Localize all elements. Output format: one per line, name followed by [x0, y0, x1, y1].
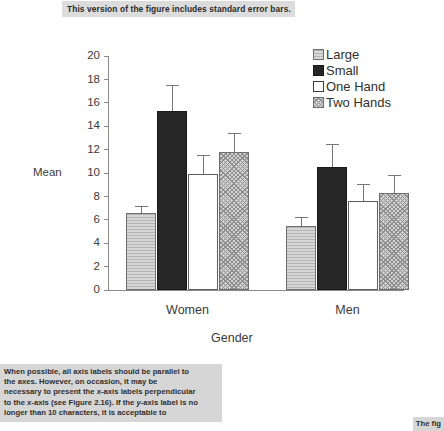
error-bar-cap	[295, 217, 308, 218]
legend-item-small: Small	[313, 64, 391, 77]
y-tick-label: 6	[94, 214, 104, 226]
y-tick-label: 20	[87, 50, 104, 62]
body-line-1: When possible, all axis labels should be…	[4, 367, 189, 376]
legend-swatch-icon	[313, 81, 324, 92]
y-tick-label: 2	[94, 261, 104, 273]
error-bar-cap	[388, 175, 401, 176]
error-bar-stem	[394, 175, 395, 193]
body-line-5: longer than 10 characters, it is accepta…	[4, 408, 166, 417]
error-bar-cap	[166, 85, 179, 86]
error-bar-stem	[172, 85, 173, 111]
error-bar-cap	[197, 155, 210, 156]
error-bar-stem	[234, 133, 235, 152]
x-axis-line	[108, 290, 404, 291]
error-bar-stem	[141, 206, 142, 213]
error-bar-stem	[301, 217, 302, 225]
body-line-2: the axes. However, on occasion, it may b…	[4, 377, 157, 386]
bar-women-two-hands	[219, 152, 249, 290]
y-tick-label: 0	[94, 284, 104, 296]
x-axis-label-men: Men	[298, 304, 398, 317]
body-line-3a: necessary to present the	[4, 387, 97, 396]
legend-label: One Hand	[326, 80, 385, 93]
legend-label: Small	[326, 64, 359, 77]
error-bar-cap	[135, 206, 148, 207]
x-axis-title: Gender	[211, 332, 253, 345]
legend-swatch-icon	[313, 49, 324, 60]
legend-item-two-hands: Two Hands	[313, 96, 391, 109]
y-tick-label: 8	[94, 191, 104, 203]
bar-men-two-hands	[379, 193, 409, 290]
corner-text-fragment: The fig	[413, 417, 444, 431]
error-bar-cap	[228, 133, 241, 134]
bar-men-one-hand	[348, 201, 378, 290]
error-bar-stem	[203, 155, 204, 174]
body-line-4b: -axis (see Figure 2.16). If the	[31, 398, 136, 407]
bar-women-one-hand	[188, 174, 218, 290]
legend-label: Large	[326, 48, 359, 61]
bar-women-large	[126, 213, 156, 290]
error-bar-stem	[332, 144, 333, 167]
y-tick-label: 16	[87, 97, 104, 109]
error-bar-stem	[363, 184, 364, 202]
legend-item-one-hand: One Hand	[313, 80, 391, 93]
error-bar-cap	[326, 144, 339, 145]
figure-caption: This version of the figure includes stan…	[62, 1, 295, 17]
chart-legend: LargeSmallOne HandTwo Hands	[313, 48, 391, 109]
legend-label: Two Hands	[326, 96, 391, 109]
legend-item-large: Large	[313, 48, 391, 61]
y-tick-label: 10	[87, 167, 104, 179]
y-tick-label: 12	[87, 144, 104, 156]
body-line-4c: -axis label is no	[141, 398, 198, 407]
bar-men-small	[317, 167, 347, 290]
x-axis-label-women: Women	[138, 304, 238, 317]
body-paragraph: When possible, all axis labels should be…	[0, 364, 222, 422]
bar-men-large	[286, 226, 316, 290]
y-tick-label: 18	[87, 74, 104, 86]
bar-women-small	[157, 111, 187, 290]
bar-chart-figure: 20181614121086420 Mean WomenMen Gender L…	[0, 40, 444, 350]
y-axis-title: Mean	[33, 167, 62, 179]
body-line-4a: to the	[4, 398, 27, 407]
body-line-3b: -axis labels perpendicular	[101, 387, 195, 396]
y-tick-label: 4	[94, 237, 104, 249]
legend-swatch-icon	[313, 97, 324, 108]
error-bar-cap	[357, 184, 370, 185]
legend-swatch-icon	[313, 65, 324, 76]
y-tick-label: 14	[87, 120, 104, 132]
